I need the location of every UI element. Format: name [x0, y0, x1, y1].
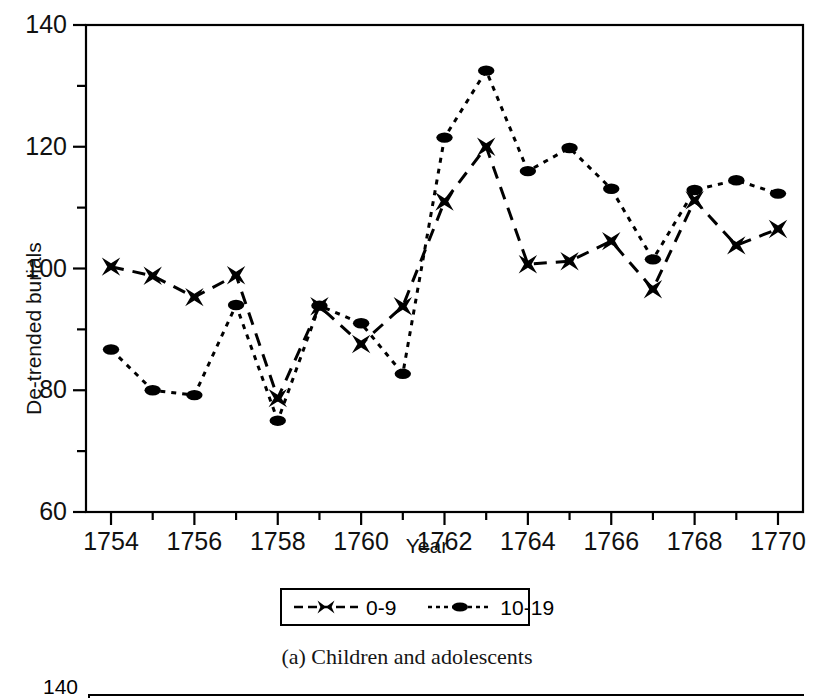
data-point-10-19: [311, 300, 327, 310]
next-figure-top-border: [88, 694, 804, 696]
data-point-10-19: [145, 385, 161, 395]
legend: 0-9 10-19: [280, 588, 530, 626]
legend-item-0-9[interactable]: 0-9: [282, 590, 396, 624]
figure-children-and-adolescents: 1401201008060 17541756175817601762176417…: [0, 0, 814, 698]
data-point-10-19: [520, 166, 536, 176]
figure-caption: (a) Children and adolescents: [0, 644, 814, 670]
filled-circle-marker-icon: [452, 602, 468, 611]
x-marker-icon: [318, 601, 335, 614]
data-point-10-19: [561, 143, 577, 153]
plot-frame: [86, 25, 803, 512]
y-axis-ticks: [73, 25, 86, 512]
plot-area-border: [86, 25, 803, 512]
x-axis-ticks: [111, 512, 778, 525]
data-point-10-19: [353, 318, 369, 328]
y-tick-label: 120: [25, 132, 67, 160]
data-point-10-19: [436, 132, 452, 142]
legend-sample-0-9: [292, 596, 360, 618]
data-point-10-19: [645, 254, 661, 264]
line-chart: 1401201008060 17541756175817601762176417…: [0, 0, 814, 560]
data-point-10-19: [770, 188, 786, 198]
next-figure-y-tick-label: 140: [43, 676, 78, 697]
next-figure-partial: 140: [0, 676, 814, 698]
legend-sample-10-19: [426, 596, 494, 618]
y-tick-label: 140: [25, 10, 67, 38]
data-point-10-19: [395, 369, 411, 379]
data-point-10-19: [103, 344, 119, 354]
data-point-10-19: [603, 184, 619, 194]
data-point-10-19: [228, 300, 244, 310]
y-tick-label: 60: [39, 497, 67, 525]
data-point-10-19: [478, 65, 494, 75]
legend-label-0-9: 0-9: [366, 597, 396, 618]
data-point-10-19: [686, 185, 702, 195]
x-axis-title: Year: [0, 534, 814, 558]
legend-label-10-19: 10-19: [500, 597, 554, 618]
next-figure-left-border: [88, 694, 90, 698]
data-point-10-19: [186, 390, 202, 400]
data-point-10-19: [728, 175, 744, 185]
y-axis-title: De-trended burials: [22, 242, 46, 415]
legend-item-10-19[interactable]: 10-19: [396, 590, 554, 624]
data-point-10-19: [270, 415, 286, 425]
